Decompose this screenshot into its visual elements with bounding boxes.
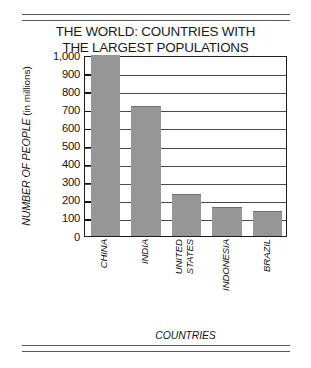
x-axis-tick-labels: CHINAINDIAUNITED STATESINDONESIABRAZIL [84,239,287,331]
y-axis-title: NUMBER OF PEOPLE (in millions) [20,51,32,241]
y-axis-title-main: NUMBER OF PEOPLE [20,119,32,226]
x-axis-tick-label: UNITED STATES [175,239,196,274]
x-axis-tick-label: BRAZIL [261,239,272,272]
bottom-rule-line-2 [22,351,290,352]
x-axis-tick-label: INDONESIA [221,239,232,291]
y-axis-tick-label: 500 [36,141,80,152]
y-axis-tick-label: 700 [36,105,80,116]
y-axis-tick-label: 400 [36,159,80,170]
bottom-rule-line-1 [22,345,290,346]
y-axis-tick-label: 0 [36,232,80,243]
y-axis-tick-label: 900 [36,69,80,80]
x-axis-tick-label-slot: UNITED STATES [165,239,206,331]
y-axis-title-units: (in millions) [21,66,32,118]
plot-area [84,56,287,237]
y-axis-tick-label: 300 [36,177,80,188]
y-axis-tick-label: 1,000 [36,51,80,62]
x-axis-tick-label-slot: CHINA [84,239,125,331]
bar [172,194,201,236]
x-axis-tick-label-slot: INDONESIA [206,239,247,331]
bar [253,211,282,236]
bar-series [85,57,286,236]
top-rule-line-2 [22,20,290,21]
y-axis-tick-labels: 1,0009008007006005004003002001000 [36,51,80,237]
x-axis-tick-label: INDIA [140,239,151,264]
top-double-rule [22,14,290,21]
bar [131,106,160,236]
bottom-double-rule [22,345,290,352]
y-axis-tick-label: 200 [36,195,80,206]
y-axis-tick-label: 800 [36,87,80,98]
y-axis-tick-label: 600 [36,123,80,134]
top-rule-line-1 [22,14,290,15]
x-axis-tick-label-slot: BRAZIL [246,239,287,331]
bar [91,55,120,236]
population-bar-chart-figure: THE WORLD: COUNTRIES WITH THE LARGEST PO… [0,0,311,368]
y-axis-tick-label: 100 [36,213,80,224]
x-axis-tick-label: CHINA [99,239,110,268]
x-axis-tick-label-slot: INDIA [125,239,166,331]
bar [212,207,241,236]
x-axis-title: COUNTRIES [84,330,287,341]
